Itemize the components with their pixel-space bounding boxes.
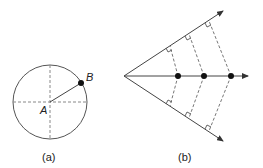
lower-ray	[124, 76, 223, 141]
radius-a-to-b	[50, 83, 81, 102]
perp-dashed-2-upper	[189, 34, 204, 76]
point-b-dot	[78, 80, 84, 86]
perp-dashed-3-upper	[209, 21, 231, 76]
label-b: B	[86, 71, 93, 83]
axis-point-2	[201, 73, 207, 79]
figure-canvas: A B (a) (b)	[0, 0, 263, 168]
caption-b: (b)	[178, 151, 191, 163]
label-a: A	[39, 104, 47, 116]
caption-a: (a)	[42, 151, 55, 163]
upper-ray	[124, 11, 223, 76]
axis-point-1	[175, 73, 181, 79]
perp-dashed-3-lower	[209, 76, 231, 131]
figure-b-angle-diagram: (b)	[124, 11, 248, 163]
perp-dashed-2-lower	[189, 76, 204, 118]
axis-point-3	[228, 73, 234, 79]
figure-a-circle-diagram: A B (a)	[13, 65, 93, 163]
